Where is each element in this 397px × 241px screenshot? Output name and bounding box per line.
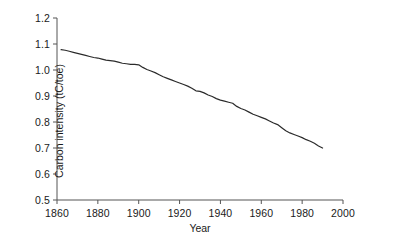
y-tick-label: 0.6 bbox=[22, 168, 50, 180]
y-tick-label: 0.5 bbox=[22, 194, 50, 206]
x-tick-label: 1920 bbox=[168, 207, 192, 219]
data-series-line bbox=[61, 50, 322, 148]
x-tick-label: 1960 bbox=[249, 207, 273, 219]
y-tick-label: 0.8 bbox=[22, 116, 50, 128]
x-tick-label: 1980 bbox=[290, 207, 314, 219]
x-tick-label: 1880 bbox=[86, 207, 110, 219]
chart-figure: 0.50.60.70.80.91.01.11.2 186018801900192… bbox=[0, 0, 397, 241]
y-tick-label: 1.0 bbox=[22, 64, 50, 76]
x-axis-title: Year bbox=[189, 222, 210, 234]
y-tick-label: 0.9 bbox=[22, 90, 50, 102]
y-tick-label: 0.7 bbox=[22, 142, 50, 154]
y-axis-title: Carbon intensity (tC/toe) bbox=[53, 64, 65, 178]
x-tick-label: 2000 bbox=[331, 207, 355, 219]
x-tick-label: 1900 bbox=[127, 207, 151, 219]
y-tick-label: 1.1 bbox=[22, 38, 50, 50]
x-tick-label: 1860 bbox=[45, 207, 69, 219]
tick-marks bbox=[53, 18, 343, 204]
y-tick-label: 1.2 bbox=[22, 12, 50, 24]
axes bbox=[57, 18, 343, 200]
x-tick-label: 1940 bbox=[209, 207, 233, 219]
